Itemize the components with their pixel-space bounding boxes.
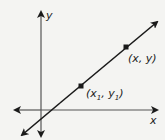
coordinate-plane-diagram: y x (x, y) (x1, y1) [0, 0, 165, 140]
point-x-y-label: (x, y) [128, 52, 157, 65]
x-axis-label: x [149, 114, 157, 127]
point-x1-y1-marker [79, 84, 84, 89]
diagram-svg: y x (x, y) (x1, y1) [0, 0, 165, 140]
point-x-y-marker [124, 45, 129, 50]
y-axis-label: y [45, 9, 53, 22]
point-x1-y1-label: (x1, y1) [86, 87, 124, 102]
